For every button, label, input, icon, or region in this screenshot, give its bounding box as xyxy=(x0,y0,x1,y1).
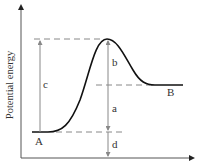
label-d: d xyxy=(112,138,118,150)
y-axis-label: Potential energy xyxy=(4,50,15,119)
measurement-arrows xyxy=(40,41,108,156)
reference-lines xyxy=(34,39,150,132)
label-point-a: A xyxy=(35,135,43,147)
label-c: c xyxy=(43,78,48,90)
label-a: a xyxy=(112,102,117,114)
label-b: b xyxy=(112,56,118,68)
label-point-b: B xyxy=(167,86,174,98)
energy-diagram: Potential energy c b a d A B xyxy=(0,0,197,165)
